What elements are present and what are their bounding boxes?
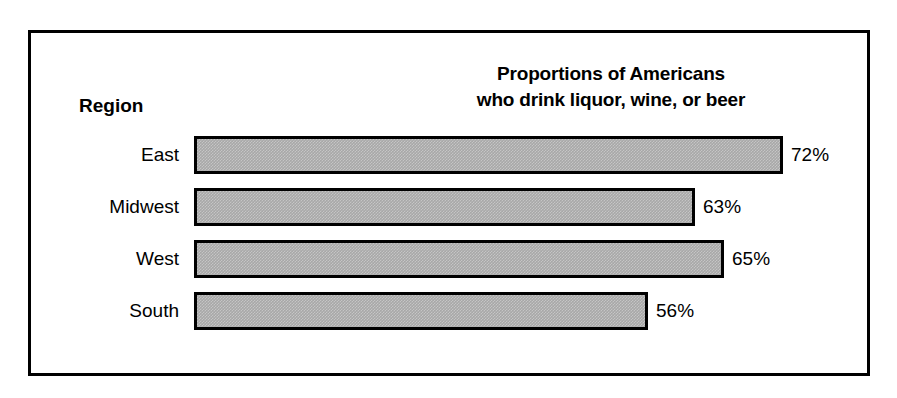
bar-value-south: 56% <box>656 292 694 330</box>
bar-category-label-midwest: Midwest <box>31 188 179 226</box>
bar-category-label-south: South <box>31 292 179 330</box>
bar-east <box>194 136 783 174</box>
bar-value-midwest: 63% <box>703 188 741 226</box>
table-row: East 72% <box>31 136 867 174</box>
table-row: South 56% <box>31 292 867 330</box>
bar-midwest <box>194 188 695 226</box>
bar-category-label-west: West <box>31 240 179 278</box>
bar-category-label-east: East <box>31 136 179 174</box>
table-row: West 65% <box>31 240 867 278</box>
bar-value-west: 65% <box>732 240 770 278</box>
bar-track-east: 72% <box>194 136 867 174</box>
bar-track-south: 56% <box>194 292 867 330</box>
chart-frame: Proportions of Americans who drink liquo… <box>28 30 870 376</box>
category-axis-header: Region <box>79 95 143 117</box>
bar-track-midwest: 63% <box>194 188 867 226</box>
chart-title-line-2: who drink liquor, wine, or beer <box>421 87 801 113</box>
bar-track-west: 65% <box>194 240 867 278</box>
bar-value-east: 72% <box>791 136 829 174</box>
plot-area: East 72% Midwest 63% West 65% South <box>31 136 867 344</box>
chart-title-line-1: Proportions of Americans <box>421 61 801 87</box>
bar-south <box>194 292 648 330</box>
chart-title: Proportions of Americans who drink liquo… <box>421 61 801 112</box>
table-row: Midwest 63% <box>31 188 867 226</box>
bar-west <box>194 240 724 278</box>
